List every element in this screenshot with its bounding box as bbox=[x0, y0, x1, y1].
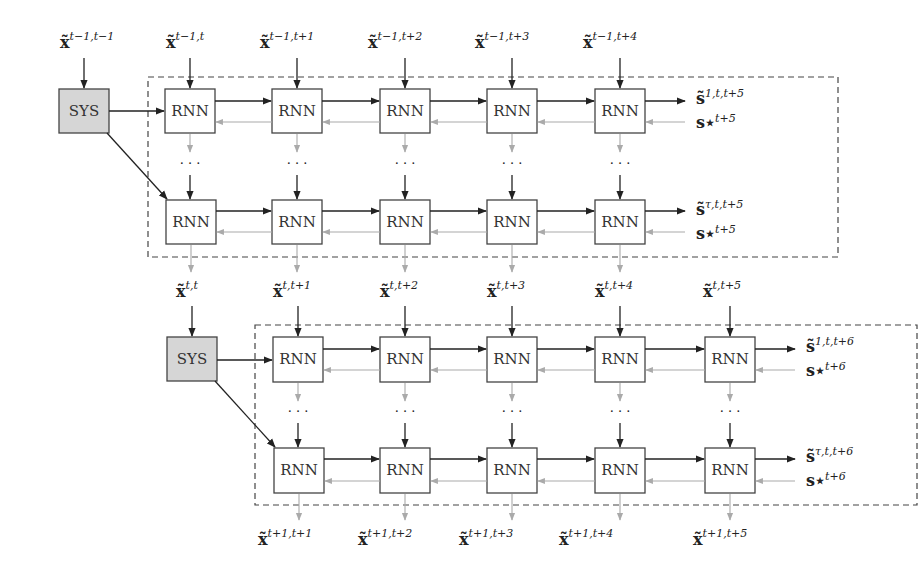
rnn-diagram: x̃t−1,t−1 SYS x̃t−1,t x̃t−1,t+1 x̃t−1,t+… bbox=[0, 0, 922, 578]
bottom-rown-output: s̃τ,t,t+6 bbox=[806, 445, 853, 466]
svg-text:x̃t+1,t+3: x̃t+1,t+3 bbox=[459, 527, 513, 549]
svg-text:· · ·: · · · bbox=[610, 156, 631, 171]
svg-text:RNN: RNN bbox=[601, 461, 639, 479]
bottom-row1-output: s̃1,t,t+6 bbox=[806, 335, 854, 356]
svg-text:x̃t−1,t+3: x̃t−1,t+3 bbox=[475, 30, 529, 52]
svg-text:· · ·: · · · bbox=[395, 404, 416, 419]
svg-text:x̃t,t+1: x̃t,t+1 bbox=[273, 279, 311, 301]
top-row1-output: s̃1,t,t+5 bbox=[696, 87, 744, 108]
bottom-rnn-row-1: RNN RNN RNN RNN RNN bbox=[273, 337, 755, 382]
svg-text:x̃t−1,t: x̃t−1,t bbox=[166, 30, 205, 52]
svg-text:x̃t,t+3: x̃t,t+3 bbox=[487, 279, 525, 301]
svg-text:RNN: RNN bbox=[493, 102, 531, 120]
top-rown-target: s⋆t+5 bbox=[696, 223, 736, 243]
svg-text:RNN: RNN bbox=[711, 461, 749, 479]
top-rnn-row-1: RNN RNN RNN RNN RNN bbox=[165, 89, 645, 133]
bottom-sys-label: SYS bbox=[177, 350, 207, 368]
svg-text:RNN: RNN bbox=[601, 102, 639, 120]
svg-text:· · ·: · · · bbox=[610, 404, 631, 419]
svg-text:RNN: RNN bbox=[171, 102, 209, 120]
svg-text:· · ·: · · · bbox=[502, 156, 523, 171]
svg-text:x̃t+1,t+4: x̃t+1,t+4 bbox=[559, 527, 613, 549]
svg-text:x̃t,t+2: x̃t,t+2 bbox=[380, 279, 418, 301]
svg-text:· · ·: · · · bbox=[287, 156, 308, 171]
svg-text:RNN: RNN bbox=[493, 213, 531, 231]
bottom-block: x̃t,t SYS x̃t,t+1 x̃t,t+2 x̃t,t+3 x̃t,t+… bbox=[167, 279, 917, 549]
top-ellipses: · · · · · · · · · · · · · · · bbox=[180, 156, 631, 171]
bottom-rown-target: s⋆t+6 bbox=[806, 470, 846, 490]
svg-text:RNN: RNN bbox=[172, 213, 210, 231]
bottom-sys-input-label: x̃t,t bbox=[176, 279, 198, 301]
svg-text:· · ·: · · · bbox=[720, 404, 741, 419]
svg-text:x̃t−1,t+2: x̃t−1,t+2 bbox=[368, 30, 422, 52]
bottom-row1-target: s⋆t+6 bbox=[806, 360, 846, 380]
svg-text:x̃t+1,t+1: x̃t+1,t+1 bbox=[258, 527, 312, 549]
svg-text:x̃t,t+4: x̃t,t+4 bbox=[595, 279, 633, 301]
bottom-outputs: x̃t+1,t+1 x̃t+1,t+2 x̃t+1,t+3 x̃t+1,t+4 … bbox=[258, 527, 747, 549]
bottom-inputs: x̃t,t+1 x̃t,t+2 x̃t,t+3 x̃t,t+4 x̃t,t+5 bbox=[273, 279, 741, 301]
svg-text:RNN: RNN bbox=[386, 461, 424, 479]
svg-text:x̃t+1,t+2: x̃t+1,t+2 bbox=[358, 527, 412, 549]
svg-text:x̃t−1,t+4: x̃t−1,t+4 bbox=[583, 30, 637, 52]
svg-text:RNN: RNN bbox=[601, 213, 639, 231]
svg-text:x̃t,t+5: x̃t,t+5 bbox=[703, 279, 741, 301]
bottom-rnn-row-n: RNN RNN RNN RNN RNN bbox=[274, 448, 755, 493]
svg-text:RNN: RNN bbox=[386, 350, 424, 368]
top-row1-target: s⋆t+5 bbox=[696, 112, 736, 132]
svg-text:RNN: RNN bbox=[386, 102, 424, 120]
svg-text:RNN: RNN bbox=[601, 350, 639, 368]
svg-text:· · ·: · · · bbox=[395, 156, 416, 171]
svg-text:x̃t−1,t+1: x̃t−1,t+1 bbox=[260, 30, 314, 52]
svg-text:RNN: RNN bbox=[278, 102, 316, 120]
top-sys-label: SYS bbox=[69, 102, 99, 120]
svg-text:RNN: RNN bbox=[493, 461, 531, 479]
svg-text:· · ·: · · · bbox=[288, 404, 309, 419]
svg-text:RNN: RNN bbox=[386, 213, 424, 231]
svg-text:· · ·: · · · bbox=[180, 156, 201, 171]
svg-text:RNN: RNN bbox=[278, 213, 316, 231]
svg-text:RNN: RNN bbox=[711, 350, 749, 368]
top-sys-input-label: x̃t−1,t−1 bbox=[60, 30, 114, 52]
svg-text:RNN: RNN bbox=[493, 350, 531, 368]
svg-text:RNN: RNN bbox=[280, 461, 318, 479]
svg-text:· · ·: · · · bbox=[502, 404, 523, 419]
bottom-ellipses: · · · · · · · · · · · · · · · bbox=[288, 404, 741, 419]
top-rnn-row-n: RNN RNN RNN RNN RNN bbox=[166, 200, 645, 244]
svg-text:x̃t+1,t+5: x̃t+1,t+5 bbox=[693, 527, 747, 549]
svg-text:RNN: RNN bbox=[279, 350, 317, 368]
top-inputs: x̃t−1,t x̃t−1,t+1 x̃t−1,t+2 x̃t−1,t+3 x̃… bbox=[166, 30, 637, 52]
top-rown-output: s̃τ,t,t+5 bbox=[696, 198, 743, 219]
top-block: x̃t−1,t−1 SYS x̃t−1,t x̃t−1,t+1 x̃t−1,t+… bbox=[59, 30, 838, 272]
